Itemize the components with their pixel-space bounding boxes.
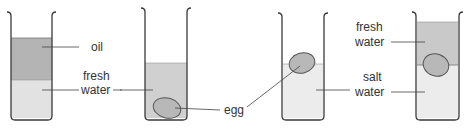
label-salt-4: salt xyxy=(363,70,382,84)
label-fresh-4: fresh xyxy=(356,20,383,34)
beaker-2 xyxy=(120,8,220,121)
label-oil: oil xyxy=(91,40,103,54)
oil-layer xyxy=(11,38,52,80)
label-water: water xyxy=(80,83,110,97)
fresh-water-layer xyxy=(11,80,52,118)
beaker-4 xyxy=(391,12,463,120)
label-fresh: fresh xyxy=(83,69,110,83)
egg-density-diagram: oil fresh water egg fresh water salt wat… xyxy=(0,0,465,129)
label-water-4b: water xyxy=(354,85,384,99)
beaker-1 xyxy=(7,12,79,120)
beaker-3 xyxy=(247,13,350,120)
label-egg: egg xyxy=(224,103,244,117)
label-water-4: water xyxy=(354,35,384,49)
